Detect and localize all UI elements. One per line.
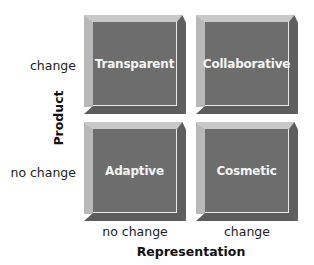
x-label-change: change <box>196 224 298 239</box>
y-axis-title: Product <box>51 90 66 145</box>
cell-transparent: Transparent <box>84 15 186 114</box>
y-label-change: change <box>30 58 76 73</box>
cell-collaborative: Collaborative <box>196 15 298 114</box>
x-axis-title: Representation <box>84 244 298 259</box>
cell-label: Collaborative <box>203 57 290 71</box>
cell-cosmetic: Cosmetic <box>196 122 298 221</box>
y-label-no-change: no change <box>10 165 76 180</box>
cell-adaptive: Adaptive <box>84 122 186 221</box>
cell-label: Transparent <box>95 57 174 71</box>
x-label-no-change: no change <box>84 224 186 239</box>
cell-label: Adaptive <box>105 164 164 178</box>
cell-label: Cosmetic <box>216 164 276 178</box>
